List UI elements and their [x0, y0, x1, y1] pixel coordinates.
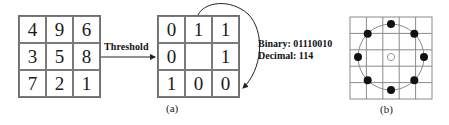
- center-pixel-icon: [387, 53, 394, 60]
- neighbor-dot-icon: [364, 30, 372, 38]
- neighbor-dot-icon: [420, 53, 428, 61]
- neighbor-dot-icon: [410, 76, 418, 84]
- neighbor-dot-icon: [354, 53, 362, 61]
- neighbor-dot-icon: [387, 86, 395, 94]
- clockwise-arrow-icon: [198, 4, 260, 88]
- lbp-figure: 4 9 6 3 5 8 7 2 1 Threshold 0 1 1 0 1 1 …: [0, 0, 449, 125]
- neighbor-dot-icon: [410, 30, 418, 38]
- neighbor-dot-icon: [387, 20, 395, 28]
- neighbor-dot-icon: [364, 76, 372, 84]
- diagram-graphics: [0, 0, 449, 125]
